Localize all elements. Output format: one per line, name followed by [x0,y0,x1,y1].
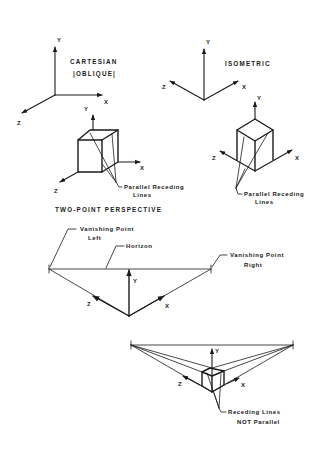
callout-leader [116,182,122,187]
isometric-z-axis [170,81,204,100]
cartesian-cube-x-label: X [140,165,144,171]
cartesian-cube-z-label: Z [54,188,58,194]
vp-left-leader [50,229,76,267]
cartesian-cube-y-label: Y [84,106,88,112]
persp-z-axis [183,376,200,385]
two-point-perspective: TWO-POINT PERSPECTIVE Y Z X Vanishing Po… [49,206,284,316]
callout-line [236,133,268,188]
cartesian-cube-z-axis [60,172,78,182]
iso-top-face [237,119,273,141]
isometric-callout-line1: Parallel Receding [244,191,304,197]
persp-y-label: Y [215,348,219,354]
cube-right-face [102,130,118,172]
isometric-y-label: Y [206,39,210,45]
persp-z-label: Z [178,381,182,387]
isometric-cube-x-label: X [295,155,299,161]
isometric-x-label: X [242,84,246,90]
callout-line [219,374,221,408]
cartesian-x-label: X [104,99,108,105]
isometric-x-axis [204,81,238,100]
persp-x-axis [226,378,239,384]
callout-line [90,133,116,182]
horizon-label: Horizon [126,243,153,249]
vp-line [212,345,293,368]
isometric-callout-line2: Lines [255,199,274,205]
two-point-z-axis [93,296,129,316]
persp-callout-line1: Receding Lines [228,409,281,415]
vp-left-label-line2: Left [88,235,101,241]
two-point-z-label: Z [87,301,91,307]
vp-line [131,345,212,368]
horizon-leader [106,246,124,268]
isometric-cube-z-label: Z [212,155,216,161]
cube-front-face [78,140,102,172]
vp-right-leader [212,255,227,267]
vp-left-label-line1: Vanishing Point [80,226,134,232]
callout-line [214,393,219,408]
vp-line [131,345,202,372]
cartesian-callout-line2: Lines [133,192,152,198]
two-point-x-label: X [165,303,169,309]
cartesian-title: CARTESIAN [70,58,118,65]
isometric-title: ISOMETRIC [225,60,271,67]
two-point-x-axis [129,296,164,316]
cartesian-z-label: Z [17,120,21,126]
cartesian-subtitle: |OBLIQUE| [73,70,116,78]
vp-right-label-line1: Vanishing Point [230,252,284,258]
cartesian-y-label: Y [57,37,61,43]
cartesian-z-axis [22,95,55,113]
vp-line [224,345,293,371]
isometric-axes: Y X Z ISOMETRIC [162,39,271,100]
two-point-title: TWO-POINT PERSPECTIVE [55,206,162,213]
isometric-cube: Y X Z Parallel Receding Lines [212,95,304,205]
callout-leader [219,408,226,412]
cartesian-axes: Y X Z CARTESIAN |OBLIQUE| [17,37,118,126]
cartesian-cube: Y X Z Parallel Receding Lines [54,106,184,198]
persp-x-label: X [241,382,245,388]
projection-diagram: Y X Z CARTESIAN |OBLIQUE| Y X Z Parallel… [0,0,333,454]
two-point-y-label: Y [133,278,137,284]
cartesian-callout-line1: Parallel Receding [124,184,184,190]
perspective-cube-group: Y Z X Receding Lines NOT Parallel [131,341,293,425]
callout-leader [236,188,242,194]
vp-right-label-line2: Right [244,262,262,268]
isometric-cube-y-label: Y [257,95,261,101]
persp-callout-line2: NOT Parallel [237,419,280,425]
isometric-z-label: Z [162,84,166,90]
